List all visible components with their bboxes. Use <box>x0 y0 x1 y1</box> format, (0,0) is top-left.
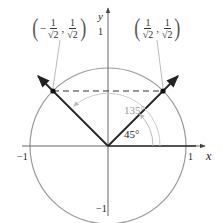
x-tick-pos: 1 <box>188 152 193 162</box>
leader-left <box>53 40 60 88</box>
x-axis-label: x <box>206 150 211 162</box>
point-left <box>50 88 55 93</box>
leader-right <box>157 40 163 88</box>
point-label-left: ( − 1 √2 , 1 √2 ) <box>31 13 87 43</box>
y-tick-pos: 1 <box>98 27 103 37</box>
x-sign: − <box>40 22 46 34</box>
ray-135 <box>38 76 108 146</box>
y-axis-label: y <box>98 11 103 22</box>
arc-45 <box>140 114 153 146</box>
point-label-right: ( 1 √2 , 1 √2 ) <box>133 13 182 43</box>
x-tick-neg: −1 <box>17 152 28 162</box>
angle-label-135: 135° <box>124 105 145 116</box>
point-right <box>160 88 165 93</box>
angle-label-45: 45° <box>124 129 139 140</box>
y-tick-neg: −1 <box>96 204 107 214</box>
